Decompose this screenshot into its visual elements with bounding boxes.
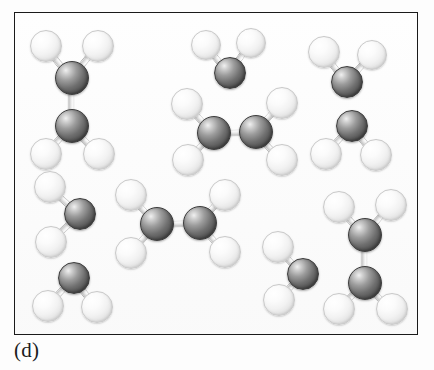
carbon-atom-ethane-top-left-3 — [55, 109, 89, 143]
hydrogen-atom-fragment-top-center-1 — [236, 28, 266, 58]
carbon-atom-fragment-bottom-left-0 — [58, 262, 90, 294]
figure-caption: (d) — [14, 340, 39, 361]
hydrogen-atom-fragment-bottom-left-2 — [81, 291, 113, 323]
carbon-atom-ethane-center-3 — [239, 115, 273, 149]
hydrogen-atom-ethane-bottom-right-1 — [375, 189, 407, 221]
hydrogen-atom-ethane-top-left-0 — [30, 30, 62, 62]
hydrogen-atom-fragment-mid-left-0 — [34, 171, 66, 203]
hydrogen-atom-ethane-lower-center-5 — [209, 236, 241, 268]
carbon-atom-ethane-top-left-2 — [55, 61, 89, 95]
hydrogen-atom-ethane-center-0 — [171, 88, 203, 120]
molecule-panel — [14, 12, 418, 335]
carbon-atom-fragment-mid-left-1 — [64, 198, 96, 230]
carbon-atom-fragment-top-right-2 — [331, 66, 363, 98]
hydrogen-atom-ethane-bottom-right-0 — [323, 191, 355, 223]
hydrogen-atom-fragment-mid-right-2 — [360, 139, 392, 171]
hydrogen-atom-fragment-mid-right-1 — [310, 138, 342, 170]
carbon-atom-fragment-mid-right-0 — [336, 110, 368, 142]
hydrogen-atom-ethane-center-4 — [266, 87, 298, 119]
hydrogen-atom-fragment-top-right-1 — [357, 40, 387, 70]
hydrogen-atom-ethane-lower-center-4 — [209, 179, 241, 211]
hydrogen-atom-fragment-bottom-center-2 — [263, 284, 295, 316]
hydrogen-atom-ethane-lower-center-1 — [115, 237, 147, 269]
hydrogen-atom-ethane-top-left-4 — [30, 138, 62, 170]
carbon-atom-ethane-lower-center-2 — [140, 207, 174, 241]
hydrogen-atom-ethane-center-1 — [172, 144, 204, 176]
hydrogen-atom-ethane-lower-center-0 — [115, 179, 147, 211]
hydrogen-atom-ethane-top-left-1 — [82, 30, 114, 62]
carbon-atom-ethane-lower-center-3 — [183, 206, 217, 240]
carbon-atom-fragment-bottom-center-1 — [287, 258, 319, 290]
carbon-atom-ethane-center-2 — [197, 116, 231, 150]
hydrogen-atom-fragment-bottom-center-0 — [262, 231, 294, 263]
carbon-atom-fragment-top-center-2 — [214, 57, 246, 89]
hydrogen-atom-fragment-top-right-0 — [308, 36, 340, 68]
hydrogen-atom-ethane-bottom-right-5 — [376, 293, 408, 325]
hydrogen-atom-fragment-mid-left-2 — [35, 226, 67, 258]
hydrogen-atom-ethane-bottom-right-4 — [323, 293, 355, 325]
hydrogen-atom-ethane-center-5 — [266, 144, 298, 176]
figure-root: (d) — [0, 0, 434, 370]
hydrogen-atom-ethane-top-left-5 — [83, 138, 115, 170]
hydrogen-atom-fragment-bottom-left-1 — [32, 290, 64, 322]
carbon-atom-ethane-bottom-right-3 — [348, 266, 382, 300]
carbon-atom-ethane-bottom-right-2 — [348, 218, 382, 252]
hydrogen-atom-fragment-top-center-0 — [191, 30, 221, 60]
